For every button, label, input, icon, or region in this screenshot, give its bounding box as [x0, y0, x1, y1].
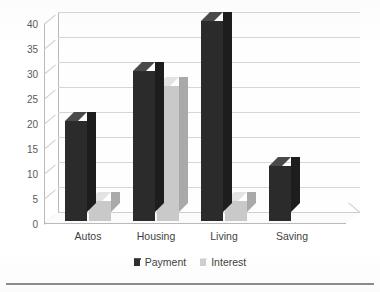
bar-front-face: [269, 166, 291, 221]
bar-living-payment: [201, 21, 223, 221]
y-tick-label-15: 15: [8, 144, 38, 155]
x-tick-label-housing: Housing: [137, 230, 176, 242]
y-tick-label-5: 5: [8, 194, 38, 205]
y-axis-tick-5: [44, 189, 56, 199]
y-tick-label-40: 40: [8, 19, 38, 30]
x-tick-label-living: Living: [210, 230, 237, 242]
legend-item-interest[interactable]: Interest: [200, 256, 246, 268]
dark-square-swatch-icon: [134, 258, 141, 266]
floor-edge-front: [44, 223, 346, 224]
bar-side-face: [223, 12, 232, 212]
gridline-40: [58, 12, 360, 13]
bar-front-face: [201, 21, 223, 221]
x-tick-label-autos: Autos: [75, 230, 102, 242]
y-axis-tick-35: [44, 39, 56, 49]
bar-side-face: [179, 77, 188, 212]
chart-legend: Payment Interest: [0, 256, 380, 268]
y-axis-tick-40: [44, 14, 56, 24]
y-tick-label-35: 35: [8, 44, 38, 55]
legend-item-payment[interactable]: Payment: [134, 256, 186, 268]
bar-front-face: [65, 121, 87, 221]
bar-side-face: [291, 157, 300, 212]
chart-figure: 4035302520151050 AutosHousingLivingSavin…: [0, 0, 380, 292]
y-axis-tick-25: [44, 89, 56, 99]
y-tick-label-25: 25: [8, 94, 38, 105]
bar-autos-payment: [65, 121, 87, 221]
y-tick-label-20: 20: [8, 119, 38, 130]
bar-front-face: [133, 71, 155, 221]
light-square-swatch-icon: [200, 258, 207, 266]
x-axis-category-labels: AutosHousingLivingSaving: [44, 230, 360, 246]
y-axis-tick-15: [44, 139, 56, 149]
y-tick-label-30: 30: [8, 69, 38, 80]
y-axis-tick-20: [44, 114, 56, 124]
bar-housing-payment: [133, 71, 155, 221]
legend-label-payment: Payment: [145, 256, 186, 268]
y-axis-tick-30: [44, 64, 56, 74]
y-tick-label-0: 0: [8, 219, 38, 230]
legend-label-interest: Interest: [211, 256, 246, 268]
x-tick-label-saving: Saving: [276, 230, 308, 242]
bar-side-face: [87, 112, 96, 212]
y-tick-label-10: 10: [8, 169, 38, 180]
y-axis-tick-10: [44, 164, 56, 174]
plot-area: [44, 12, 360, 224]
bar-saving-payment: [269, 166, 291, 221]
bar-side-face: [155, 62, 164, 212]
page-bottom-rule: [6, 283, 374, 285]
